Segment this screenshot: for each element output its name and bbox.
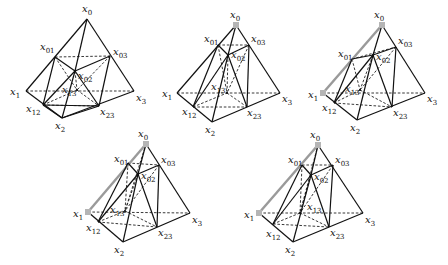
tetrahedron-figure-2: x0x01x03x02x13x1x3x12x23x2 (162, 9, 292, 138)
vertex-label-x0: x0 (138, 128, 148, 142)
vertex-dot-x02 (74, 70, 76, 72)
visible-edge-x2-x3 (293, 213, 363, 242)
tetrahedron-figure-4: x0x01x03x02x13x1x3x12x23x2 (73, 128, 202, 258)
visible-edge-x2-x3 (357, 93, 425, 120)
vertex-label-x03: x03 (398, 35, 413, 49)
tetrahedron-figure-5: x0x01x03x02x13x1x3x12x23x2 (244, 129, 375, 258)
vertex-dot-x02 (227, 54, 229, 56)
vertex-label-x3: x3 (136, 92, 146, 106)
vertex-label-x2: x2 (285, 244, 295, 258)
marked-vertex-x1 (320, 90, 326, 96)
marked-vertex-x0 (315, 142, 321, 148)
visible-edge-x03-x23 (247, 45, 249, 107)
hidden-edge-x02-x13 (360, 55, 373, 90)
vertex-dot-x13 (226, 92, 228, 94)
vertex-label-x13: x13 (307, 201, 322, 215)
visible-edge-x12-x23 (43, 105, 99, 106)
vertex-label-x12: x12 (322, 102, 337, 116)
vertex-label-x0: x0 (82, 3, 92, 17)
marked-vertex-x0 (379, 22, 385, 28)
visible-edge-x01-x12 (273, 165, 302, 224)
vertex-dot-x02 (310, 174, 312, 176)
vertex-label-x02: x02 (376, 51, 391, 65)
vertex-label-x03: x03 (251, 33, 266, 47)
visible-edge-x2-x3 (123, 213, 190, 242)
vertex-label-x12: x12 (86, 222, 101, 236)
vertex-dot-x13 (299, 212, 301, 214)
vertex-label-x01: x01 (204, 33, 219, 47)
vertex-label-x1: x1 (308, 89, 318, 103)
vertex-label-x23: x23 (247, 107, 262, 121)
vertex-label-x13: x13 (110, 204, 125, 218)
tetrahedron-figure-1: x0x01x03x02x13x1x3x12x23x2 (10, 3, 146, 134)
vertex-dot-x02 (137, 173, 139, 175)
marked-vertex-x0 (143, 141, 149, 147)
vertex-label-x01: x01 (338, 48, 353, 62)
vertex-label-x02: x02 (231, 49, 246, 63)
vertex-label-x23: x23 (330, 227, 345, 241)
hidden-edge-x13-x23 (77, 90, 99, 106)
vertex-dot-x02 (372, 54, 374, 56)
tetrahedra-subdivision-diagram: x0x01x03x02x13x1x3x12x23x2x0x01x03x02x13… (0, 0, 448, 265)
vertex-label-x13: x13 (345, 83, 360, 97)
vertex-label-x1: x1 (73, 208, 83, 222)
vertex-label-x2: x2 (350, 122, 360, 136)
visible-edge-x01-x12 (334, 59, 352, 103)
vertex-label-x1: x1 (162, 88, 172, 102)
visible-edge-x2-x3 (212, 93, 280, 122)
visible-edge-x03-x23 (392, 47, 396, 107)
vertex-label-x2: x2 (55, 120, 65, 134)
marked-vertex-x1 (85, 209, 91, 215)
hidden-edge-x01-x03 (128, 163, 159, 165)
vertex-label-x0: x0 (230, 9, 240, 23)
visible-edge-x12-x2 (43, 105, 62, 118)
vertex-label-x1: x1 (244, 209, 254, 223)
vertex-label-x03: x03 (335, 154, 350, 168)
vertex-label-x3: x3 (282, 93, 292, 107)
vertex-label-x3: x3 (192, 214, 202, 228)
visible-edge-x02-x23 (228, 55, 247, 107)
vertex-label-x13: x13 (211, 81, 226, 95)
visible-edge-x03-x23 (157, 165, 159, 227)
vertex-label-x0: x0 (374, 9, 384, 23)
visible-edge-x2-x23 (62, 106, 99, 118)
hidden-edge-x01-x13 (352, 59, 360, 90)
vertex-label-x1: x1 (10, 86, 20, 100)
vertex-label-x2: x2 (205, 124, 215, 138)
visible-edge-x03-x23 (99, 56, 110, 106)
visible-edge-x01-x02 (302, 165, 311, 175)
vertex-label-x23: x23 (100, 106, 115, 120)
vertex-label-x01: x01 (114, 153, 129, 167)
vertex-label-x01: x01 (40, 41, 55, 55)
vertex-label-x02: x02 (78, 70, 93, 84)
hidden-edge-x01-x03 (55, 56, 110, 57)
vertex-label-x01: x01 (288, 154, 303, 168)
vertex-label-x3: x3 (427, 93, 437, 107)
visible-edge-x02-x12 (273, 175, 311, 224)
visible-edge-x03-x23 (329, 165, 333, 227)
vertex-label-x03: x03 (113, 46, 128, 60)
hidden-edge-x12-x23 (273, 224, 329, 227)
tetrahedron-figure-3: x0x01x03x02x13x1x3x12x23x2 (308, 9, 437, 136)
vertex-label-x02: x02 (314, 171, 329, 185)
visible-edge-x01-x02 (128, 163, 138, 174)
marked-vertex-x1 (256, 210, 262, 216)
vertex-label-x23: x23 (158, 227, 173, 241)
visible-edge-x1-x2 (323, 93, 357, 120)
visible-edge-x02-x03 (75, 56, 110, 71)
vertex-label-x23: x23 (393, 107, 408, 121)
vertex-label-x12: x12 (26, 103, 41, 117)
marked-vertex-x0 (233, 22, 239, 28)
vertex-label-x2: x2 (114, 244, 124, 258)
visible-edge-x01-x02 (55, 57, 75, 71)
vertex-label-x0: x0 (310, 129, 320, 143)
visible-edge-x01-x02 (218, 45, 228, 55)
hidden-edge-x12-x23 (334, 103, 392, 107)
vertex-label-x03: x03 (161, 154, 176, 168)
vertex-label-x3: x3 (365, 214, 375, 228)
